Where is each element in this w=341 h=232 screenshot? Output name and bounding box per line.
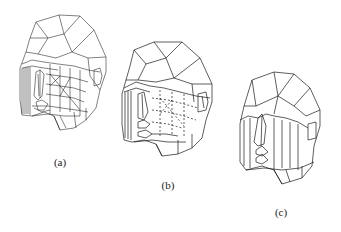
panel-label-c: (c) [275,206,287,218]
head-model-b [116,36,218,166]
panel-label-a: (a) [54,156,66,168]
wireframe-head-b-icon [116,36,218,166]
head-model-a [14,12,110,144]
panel-label-b: (b) [162,179,175,191]
wireframe-head-c-icon [234,66,330,190]
head-model-c [234,66,330,190]
wireframe-head-a-icon [14,12,110,144]
